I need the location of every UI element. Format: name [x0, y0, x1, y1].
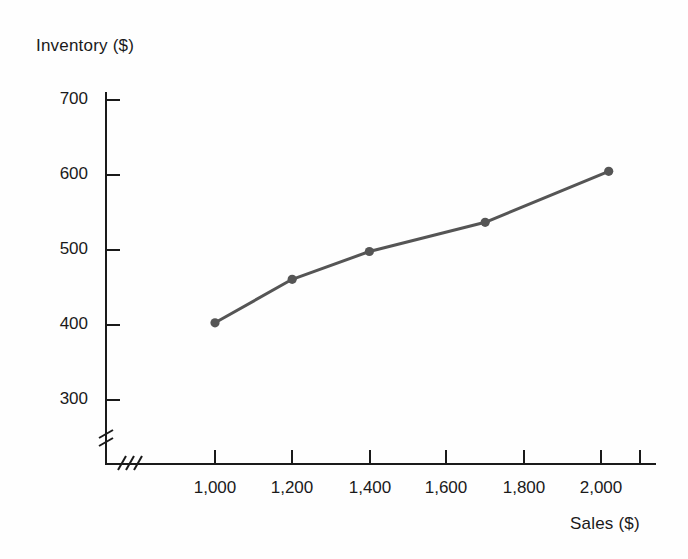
data-point-1400	[365, 247, 374, 256]
data-point-1700	[481, 218, 490, 227]
y-axis-ticks	[106, 100, 120, 400]
plot-area	[0, 0, 688, 559]
data-series-inventory-vs-sales	[210, 167, 613, 328]
data-point-2020	[604, 167, 613, 176]
chart-container: Inventory ($) Sales ($) 700 600 500 400 …	[0, 0, 688, 559]
series-markers	[210, 167, 613, 328]
data-point-1000	[210, 318, 219, 327]
series-line	[215, 171, 609, 322]
axes-group	[99, 92, 656, 470]
data-point-1200	[288, 275, 297, 284]
x-axis-ticks	[215, 450, 640, 464]
x-axis-break-icon	[118, 456, 142, 470]
